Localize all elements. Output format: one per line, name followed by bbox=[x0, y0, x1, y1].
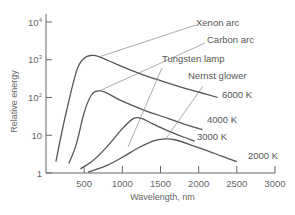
temp-label-xenon-arc: 6000 K bbox=[222, 89, 253, 100]
x-axis-title: Wavelength, nm bbox=[130, 192, 195, 202]
label-carbon-arc: Carbon arc bbox=[207, 34, 254, 45]
label-nernst-glower: Nernst glower bbox=[188, 70, 247, 81]
x-tick-label: 3000 bbox=[264, 178, 285, 189]
x-tick-label: 2000 bbox=[188, 178, 209, 189]
temp-label-nernst-glower: 2000 K bbox=[248, 150, 279, 161]
y-tick-label: 102 bbox=[28, 92, 43, 103]
leader-xenon-arc bbox=[99, 25, 196, 57]
y-axis-title: Relative energy bbox=[9, 70, 19, 133]
y-tick-label: 1 bbox=[37, 168, 42, 179]
label-xenon-arc: Xenon arc bbox=[196, 17, 240, 28]
x-tick-label: 2500 bbox=[226, 178, 247, 189]
temp-label-carbon-arc: 4000 K bbox=[207, 114, 238, 125]
label-tungsten-lamp: Tungsten lamp bbox=[162, 53, 225, 64]
x-tick-label: 1000 bbox=[112, 178, 133, 189]
chart: 11010210310450010001500200025003000Wavel… bbox=[0, 0, 295, 215]
y-tick-label: 104 bbox=[28, 17, 43, 28]
y-tick-label: 103 bbox=[28, 54, 43, 65]
series-line-carbon-arc bbox=[69, 91, 203, 164]
annotation-leaders bbox=[99, 25, 205, 147]
temp-label-tungsten-lamp: 3000 K bbox=[197, 131, 228, 142]
leader-carbon-arc bbox=[99, 43, 205, 91]
x-tick-label: 1500 bbox=[150, 178, 171, 189]
y-tick-label: 10 bbox=[31, 130, 42, 141]
leader-tungsten-lamp bbox=[128, 68, 162, 147]
labels: Xenon arc6000 KCarbon arc4000 KTungsten … bbox=[162, 17, 279, 161]
x-tick-label: 500 bbox=[76, 178, 92, 189]
